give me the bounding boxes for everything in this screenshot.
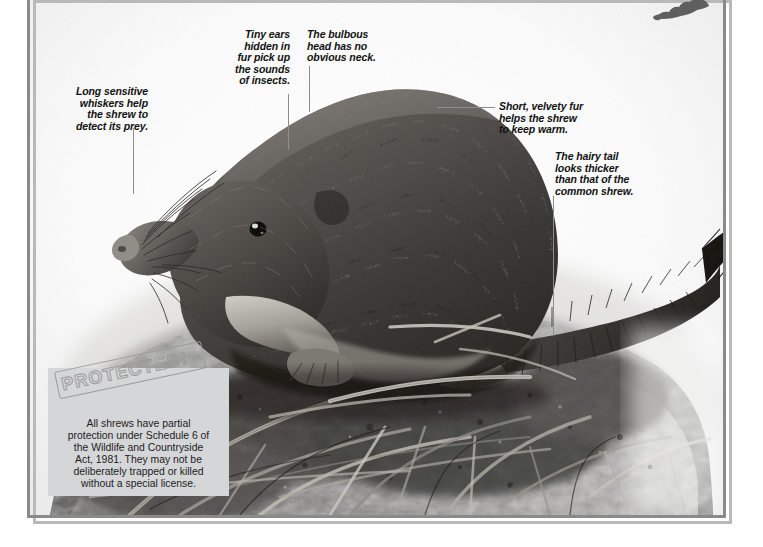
callout-head: The bulbous head has no obvious neck. <box>307 29 391 64</box>
leader-line-head <box>309 66 310 112</box>
protected-body-text: All shrews have partial protection under… <box>56 418 221 491</box>
callout-whiskers: Long sensitive whiskers help the shrew t… <box>62 86 148 132</box>
protected-info-box: PROTECTED! All shrews have partial prote… <box>48 368 229 496</box>
callout-fur: Short, velvety fur helps the shrew to ke… <box>499 101 611 136</box>
leader-line-whiskers <box>133 128 134 194</box>
callout-ears: Tiny ears hidden in fur pick up the soun… <box>222 29 290 87</box>
leader-line-tail <box>553 196 554 336</box>
distribution-map-icon <box>651 0 711 26</box>
illustrated-plate: Long sensitive whiskers help the shrew t… <box>0 0 763 547</box>
callout-tail: The hairy tail looks thicker than that o… <box>555 151 655 197</box>
leader-line-fur <box>437 107 495 108</box>
leader-line-ears <box>288 94 289 150</box>
map-silhouette-shape <box>657 0 709 19</box>
